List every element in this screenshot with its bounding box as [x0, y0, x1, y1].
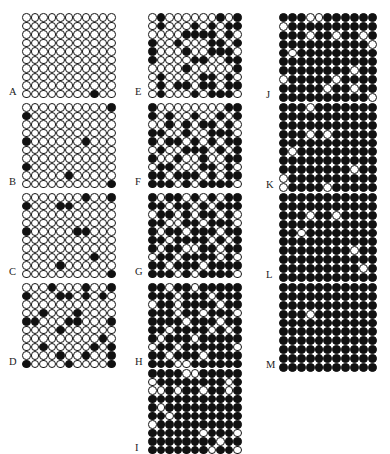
open-circle [82, 22, 91, 31]
open-circle [39, 81, 48, 90]
filled-circle [288, 165, 297, 174]
open-circle [73, 210, 82, 219]
open-circle [65, 180, 74, 189]
open-circle [199, 137, 208, 146]
open-circle [73, 146, 82, 155]
open-circle [22, 270, 31, 279]
filled-circle [157, 437, 166, 446]
open-circle [82, 103, 91, 112]
filled-circle [350, 183, 359, 192]
filled-circle [288, 211, 297, 220]
filled-circle [191, 112, 200, 121]
open-circle [39, 120, 48, 129]
filled-circle [174, 326, 183, 335]
filled-circle [199, 437, 208, 446]
filled-circle [332, 112, 341, 121]
filled-circle [279, 93, 288, 102]
open-circle [216, 253, 225, 262]
open-circle [148, 90, 157, 99]
open-circle [174, 253, 183, 262]
filled-circle [306, 22, 315, 31]
open-circle [148, 81, 157, 90]
filled-circle [359, 292, 368, 301]
open-circle [56, 163, 65, 172]
filled-circle [216, 129, 225, 138]
filled-circle [279, 165, 288, 174]
filled-circle [350, 264, 359, 273]
open-circle [48, 112, 57, 121]
filled-circle [174, 437, 183, 446]
filled-circle [279, 103, 288, 112]
filled-circle [165, 244, 174, 253]
open-circle [107, 146, 116, 155]
filled-circle [306, 283, 315, 292]
open-circle [233, 270, 242, 279]
filled-circle [279, 13, 288, 22]
open-circle [56, 22, 65, 31]
filled-circle [199, 292, 208, 301]
filled-circle [323, 202, 332, 211]
filled-circle [208, 283, 217, 292]
filled-circle [368, 273, 377, 282]
filled-circle [157, 146, 166, 155]
open-circle [107, 261, 116, 270]
open-circle [174, 292, 183, 301]
filled-circle [208, 22, 217, 31]
open-circle [56, 120, 65, 129]
lattice-grid-f [148, 103, 242, 188]
filled-circle [225, 283, 234, 292]
open-circle [39, 360, 48, 369]
lattice-grid-d [22, 283, 116, 368]
open-circle [99, 30, 108, 39]
open-circle [99, 180, 108, 189]
filled-circle [359, 202, 368, 211]
filled-circle [297, 183, 306, 192]
filled-circle [174, 137, 183, 146]
open-circle [39, 300, 48, 309]
filled-circle [279, 49, 288, 58]
filled-circle [174, 39, 183, 48]
filled-circle [225, 334, 234, 343]
open-circle [350, 84, 359, 93]
filled-circle [368, 363, 377, 372]
filled-circle [350, 130, 359, 139]
filled-circle [341, 103, 350, 112]
panel-h: H [135, 283, 242, 368]
open-circle [233, 253, 242, 262]
open-circle [73, 326, 82, 335]
filled-circle [233, 236, 242, 245]
filled-circle [279, 130, 288, 139]
open-circle [65, 30, 74, 39]
open-circle [199, 39, 208, 48]
open-circle [22, 261, 31, 270]
open-circle [82, 171, 91, 180]
open-circle [22, 146, 31, 155]
open-circle [306, 130, 315, 139]
filled-circle [350, 13, 359, 22]
open-circle [199, 309, 208, 318]
open-circle [182, 154, 191, 163]
open-circle [22, 30, 31, 39]
open-circle [191, 334, 200, 343]
open-circle [368, 40, 377, 49]
open-circle [182, 103, 191, 112]
filled-circle [297, 31, 306, 40]
filled-circle [297, 354, 306, 363]
open-circle [31, 163, 40, 172]
filled-circle [315, 229, 324, 238]
filled-circle [199, 326, 208, 335]
filled-circle [368, 31, 377, 40]
open-circle [332, 75, 341, 84]
filled-circle [174, 395, 183, 404]
filled-circle [315, 165, 324, 174]
filled-circle [315, 57, 324, 66]
open-circle [174, 47, 183, 56]
open-circle [65, 300, 74, 309]
filled-circle [191, 300, 200, 309]
open-circle [107, 236, 116, 245]
filled-circle [323, 165, 332, 174]
filled-circle [216, 112, 225, 121]
filled-circle [332, 66, 341, 75]
filled-circle [148, 112, 157, 121]
filled-circle [191, 351, 200, 360]
